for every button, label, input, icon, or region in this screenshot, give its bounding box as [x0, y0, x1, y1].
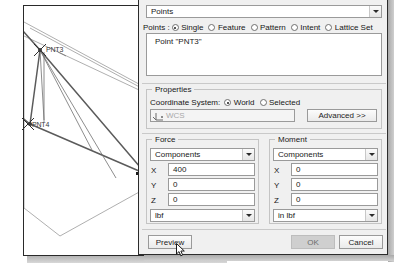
- moment-y-label: Y: [274, 181, 279, 190]
- dialog-shadow-right: [388, 0, 394, 262]
- force-z-input[interactable]: 0: [168, 193, 255, 206]
- force-mode-value: Components: [151, 150, 242, 159]
- properties-group-title: Properties: [152, 85, 194, 94]
- radio-dot-icon: [251, 24, 258, 31]
- chevron-down-icon[interactable]: [365, 210, 377, 221]
- cancel-button-label: Cancel: [349, 238, 374, 247]
- points-list[interactable]: Point "PNT3": [146, 33, 382, 76]
- moment-z-input[interactable]: 0: [291, 193, 378, 206]
- points-selection-row: Points : Single Feature Pattern Intent: [143, 23, 378, 32]
- radio-lattice-set[interactable]: Lattice Set: [325, 23, 372, 32]
- moment-y-input[interactable]: 0: [291, 178, 378, 191]
- moment-units-combo[interactable]: in lbf: [273, 209, 378, 222]
- radio-world-label: World: [234, 98, 255, 107]
- force-z-value: 0: [173, 195, 177, 204]
- moment-y-value: 0: [296, 180, 300, 189]
- moment-group-title: Moment: [275, 135, 310, 144]
- moment-z-value: 0: [296, 195, 300, 204]
- chevron-down-icon[interactable]: [365, 149, 377, 160]
- radio-pattern-label: Pattern: [260, 23, 286, 32]
- radio-dot-icon: [325, 24, 332, 31]
- force-units-value: lbf: [151, 211, 242, 220]
- divider: [142, 133, 386, 134]
- moment-units-value: in lbf: [274, 211, 365, 220]
- force-y-input[interactable]: 0: [168, 178, 255, 191]
- moment-z-label: Z: [274, 196, 279, 205]
- radio-feature-label: Feature: [218, 23, 246, 32]
- force-group-title: Force: [152, 135, 178, 144]
- divider: [142, 229, 386, 230]
- radio-lattice-set-label: Lattice Set: [335, 23, 373, 32]
- force-moment-dialog: Points Points : Single Feature Pattern: [138, 0, 388, 255]
- radio-single[interactable]: Single: [172, 23, 204, 32]
- preview-button[interactable]: Preview: [148, 235, 192, 249]
- screen: PNT3 PNT4 PNT5 Points Points : Single: [0, 0, 396, 274]
- ok-button[interactable]: OK: [291, 235, 335, 249]
- advanced-button-label: Advanced >>: [318, 111, 365, 120]
- radio-pattern[interactable]: Pattern: [251, 23, 286, 32]
- force-z-label: Z: [151, 196, 156, 205]
- preview-button-label: Preview: [156, 238, 184, 247]
- csys-field-value: WCS: [166, 111, 185, 120]
- force-x-input[interactable]: 400: [168, 163, 255, 176]
- cancel-button[interactable]: Cancel: [339, 235, 383, 249]
- csys-axes-icon: [153, 112, 164, 121]
- radio-selected[interactable]: Selected: [260, 98, 301, 107]
- radio-dot-icon: [208, 24, 215, 31]
- force-x-value: 400: [173, 165, 186, 174]
- moment-x-input[interactable]: 0: [291, 163, 378, 176]
- force-mode-combo[interactable]: Components: [150, 148, 255, 161]
- radio-dot-icon: [224, 99, 231, 106]
- moment-mode-value: Components: [274, 150, 365, 159]
- coordinate-system-label: Coordinate System:: [150, 98, 220, 107]
- moment-x-label: X: [274, 166, 279, 175]
- radio-world[interactable]: World: [224, 98, 254, 107]
- point-label-pnt4: PNT4: [32, 121, 49, 128]
- feature-type-combo[interactable]: Points: [146, 5, 382, 18]
- chevron-down-icon[interactable]: [242, 210, 254, 221]
- radio-dot-icon: [260, 99, 267, 106]
- points-row-label: Points :: [143, 23, 170, 32]
- radio-intent-label: Intent: [300, 23, 320, 32]
- chevron-down-icon[interactable]: [369, 6, 381, 17]
- list-item[interactable]: Point "PNT3": [155, 37, 381, 46]
- moment-x-value: 0: [296, 165, 300, 174]
- radio-selected-label: Selected: [269, 98, 300, 107]
- radio-dot-icon: [172, 24, 179, 31]
- force-y-value: 0: [173, 180, 177, 189]
- dialog-shadow-bottom: [144, 255, 394, 261]
- advanced-button[interactable]: Advanced >>: [307, 109, 377, 122]
- ok-button-label: OK: [307, 238, 319, 247]
- radio-intent[interactable]: Intent: [291, 23, 321, 32]
- force-y-label: Y: [151, 181, 156, 190]
- radio-dot-icon: [291, 24, 298, 31]
- csys-field[interactable]: WCS: [150, 109, 295, 122]
- moment-mode-combo[interactable]: Components: [273, 148, 378, 161]
- chevron-down-icon[interactable]: [242, 149, 254, 160]
- force-x-label: X: [151, 166, 156, 175]
- coordinate-system-row: Coordinate System: World Selected: [150, 98, 305, 107]
- force-units-combo[interactable]: lbf: [150, 209, 255, 222]
- feature-type-value: Points: [147, 7, 369, 16]
- radio-feature[interactable]: Feature: [208, 23, 245, 32]
- divider: [142, 83, 386, 84]
- radio-single-label: Single: [181, 23, 203, 32]
- point-label-pnt3: PNT3: [46, 46, 63, 53]
